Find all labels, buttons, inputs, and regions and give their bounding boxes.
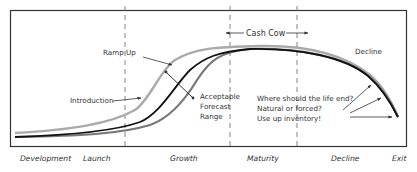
acceptable-label-line1: Acceptable xyxy=(200,92,240,101)
acceptable-label-line3: Range xyxy=(200,112,223,121)
product-lifecycle-diagram: Ramp Up Introduction Acceptable Forecast… xyxy=(0,0,417,172)
phase-launch: Launch xyxy=(83,154,111,163)
phase-decline: Decline xyxy=(331,154,360,163)
phase-growth: Growth xyxy=(170,154,198,163)
question-line1: Where should the life end? xyxy=(257,94,354,103)
phase-development: Development xyxy=(20,154,72,163)
end-arrow-2 xyxy=(350,98,381,113)
ramp-up-arrow xyxy=(143,57,172,65)
question-line2: Natural or forced? xyxy=(257,104,322,113)
phase-exit: Exit xyxy=(392,154,407,163)
phase-maturity: Maturity xyxy=(247,154,279,163)
question-line3: Use up inventory! xyxy=(257,114,321,123)
cash-cow-label: Cash Cow xyxy=(246,29,286,38)
decline-top-label: Decline xyxy=(355,47,382,56)
introduction-label: Introduction xyxy=(70,96,114,105)
introduction-arrow xyxy=(113,98,141,101)
ramp-up-label: Ramp Up xyxy=(103,48,136,57)
acceptable-label-line2: Forecast xyxy=(200,102,231,111)
chart-frame xyxy=(11,11,407,147)
